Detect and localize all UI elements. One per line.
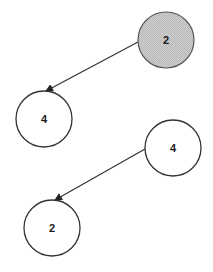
- node-4-right[interactable]: 4: [145, 120, 201, 176]
- edge-n1-to-n2: [46, 42, 138, 91]
- node-2-bottom[interactable]: 2: [24, 200, 80, 256]
- node-label: 2: [163, 34, 169, 46]
- node-highlighted-2[interactable]: 2: [138, 12, 194, 68]
- node-label: 4: [41, 113, 48, 125]
- diagram-canvas: 2 4 4 2: [0, 0, 213, 272]
- node-label: 2: [49, 222, 55, 234]
- node-label: 4: [170, 142, 177, 154]
- node-4-left[interactable]: 4: [16, 91, 72, 147]
- edge-n3-to-n4: [55, 149, 145, 200]
- graph-svg: 2 4 4 2: [0, 0, 213, 272]
